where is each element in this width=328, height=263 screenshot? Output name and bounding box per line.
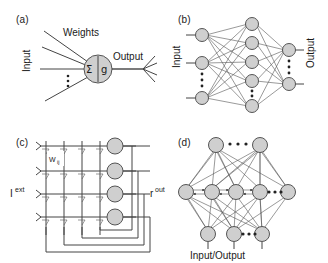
input-current-superscript: ext <box>15 186 24 193</box>
panel-a-input-ellipsis-icon <box>67 75 70 88</box>
figure-root: (a) Σ g <box>0 0 328 263</box>
panel-c-graphic: W ij <box>0 131 164 263</box>
panel-a-label: (a) <box>16 14 29 25</box>
panel-b: (b) <box>164 0 328 131</box>
panel-c: (c) <box>0 131 164 263</box>
panel-c-label: (c) <box>16 137 28 148</box>
panel-a-input-lines <box>40 31 88 101</box>
panel-b-edges-hidden-output <box>256 24 285 106</box>
panel-c-neurons <box>107 138 123 225</box>
panel-b-edges-input-hidden <box>206 24 248 106</box>
panel-c-output-label: r out <box>150 186 165 199</box>
weights-label: Weights <box>63 27 99 38</box>
panel-c-row-inputs <box>36 142 41 221</box>
panel-d: (d) <box>164 131 328 263</box>
output-label-b: Output <box>305 38 316 68</box>
output-label-a: Output <box>113 51 143 62</box>
panel-c-input-label: I ext <box>10 186 24 199</box>
input-label-a: Input <box>21 50 32 72</box>
sum-symbol: Σ <box>86 64 92 75</box>
panel-b-label: (b) <box>178 14 191 25</box>
panel-a: (a) Σ g <box>0 0 164 131</box>
panel-d-top-row <box>209 138 268 153</box>
weight-subscript: ij <box>57 159 59 165</box>
panel-d-label: (d) <box>178 137 191 148</box>
panel-d-middle-row <box>179 185 296 200</box>
panel-b-output-stubs <box>293 50 304 84</box>
rate-output-symbol: r <box>150 188 154 199</box>
panel-b-output-layer <box>283 44 296 91</box>
panel-b-hidden-layer <box>246 18 259 113</box>
io-label-d: Input/Output <box>190 250 245 261</box>
panel-d-graphic: Input/Output <box>164 131 328 263</box>
input-current-symbol: I <box>10 188 13 199</box>
panel-b-input-layer <box>196 29 209 105</box>
panel-c-output-lines <box>123 146 150 217</box>
input-label-b: Input <box>171 46 182 68</box>
activation-symbol: g <box>101 64 107 75</box>
panel-d-io-stubs <box>208 242 262 249</box>
panel-d-bottom-row <box>201 227 270 242</box>
panel-d-edges-middle-bottom <box>186 195 288 231</box>
panel-d-edges-top-middle <box>186 148 288 189</box>
weight-symbol: W <box>49 156 56 163</box>
panel-c-weight-label: W ij <box>47 151 64 166</box>
